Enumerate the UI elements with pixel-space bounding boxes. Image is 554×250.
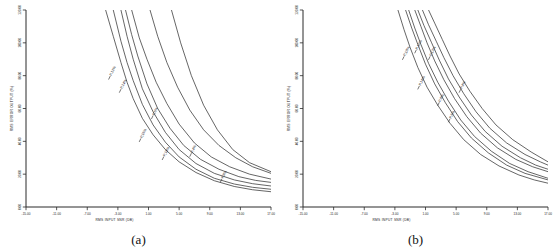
x-tick-label: -11.00 [329, 212, 338, 216]
series-curve [429, 10, 548, 162]
y-tick-label: 40.00 [18, 137, 22, 145]
series-curve [398, 10, 548, 183]
series-label-text: P,16% [139, 127, 147, 139]
series-label-leader [119, 89, 121, 93]
panel-b-svg: -15.00-11.00-7.00-3.001.005.009.0013.001… [277, 0, 554, 232]
x-tick-label: -7.00 [361, 212, 368, 216]
x-tick-label: 9.00 [207, 212, 213, 216]
panel-b: -15.00-11.00-7.00-3.001.005.009.0013.001… [277, 0, 554, 250]
series-curve [121, 10, 271, 186]
series-curve [406, 10, 548, 180]
x-tick-label: -3.00 [114, 212, 121, 216]
series-label: P,16% [137, 127, 147, 143]
series-label-text: P,14% [120, 78, 128, 90]
series-label-leader [162, 156, 164, 160]
x-tick-label: -15.00 [299, 212, 308, 216]
series-label: P,12% [107, 65, 117, 81]
series-curve [409, 10, 548, 178]
series-curve [106, 10, 271, 192]
series-label: P,12% [427, 45, 437, 61]
x-tick-label: 17.00 [544, 212, 552, 216]
y-tick-label: 120.00 [295, 5, 299, 15]
series-curve [132, 10, 271, 179]
y-tick-label: 60.00 [295, 104, 299, 112]
series-curve [126, 10, 271, 182]
y-tick-label: 80.00 [18, 72, 22, 80]
series-curve [418, 10, 548, 169]
x-tick-label: -15.00 [22, 212, 31, 216]
series-label-text: P,12% [429, 45, 437, 57]
x-tick-label: 5.00 [453, 212, 459, 216]
y-tick-label: 100.00 [18, 38, 22, 48]
y-tick-label: 0.00 [295, 204, 299, 210]
series-label-text: P,6% [152, 106, 160, 116]
series-curve [422, 10, 548, 165]
x-tick-label: -11.00 [52, 212, 61, 216]
y-tick-label: 100.00 [295, 38, 299, 48]
panel-a: -15.00-11.00-7.00-3.001.005.009.0013.001… [0, 0, 277, 250]
y-tick-label: 120.00 [18, 5, 22, 15]
y-tick-label: 40.00 [295, 137, 299, 145]
series-label-text: P,14% [418, 75, 426, 87]
x-axis-title: RMS INPUT SNR (DB) [372, 218, 410, 222]
x-tick-label: 5.00 [176, 212, 182, 216]
y-axis-title: RMS ERROR OUTPUT (%) [287, 86, 291, 132]
x-axis-title: RMS INPUT SNR (DB) [95, 218, 133, 222]
y-axis-title: RMS ERROR OUTPUT (%) [10, 86, 14, 132]
series-label-leader [109, 76, 111, 80]
series-label-leader [402, 56, 404, 60]
series-label-leader [428, 56, 430, 60]
series-label-text: P,12% [109, 65, 117, 77]
series-label: P,18% [401, 45, 411, 61]
x-tick-label: 1.00 [145, 212, 151, 216]
y-tick-label: 80.00 [295, 72, 299, 80]
figure-two-panel-line-charts: -15.00-11.00-7.00-3.001.005.009.0013.001… [0, 0, 554, 250]
x-tick-label: 17.00 [267, 212, 275, 216]
panel-a-caption: (a) [0, 232, 277, 248]
x-tick-label: -7.00 [84, 212, 91, 216]
series-label-leader [139, 138, 141, 142]
x-tick-label: 1.00 [422, 212, 428, 216]
series-label-leader [151, 115, 153, 119]
series-label-leader [438, 102, 440, 106]
series-curve [415, 10, 548, 172]
y-tick-label: 20.00 [295, 170, 299, 178]
series-label-leader [190, 153, 192, 157]
y-tick-label: 60.00 [18, 104, 22, 112]
panel-a-plot: -15.00-11.00-7.00-3.001.005.009.0013.001… [0, 0, 277, 232]
y-tick-label: 0.00 [18, 204, 22, 210]
series-label-leader [415, 50, 417, 54]
panel-b-caption: (b) [277, 232, 554, 248]
panel-a-svg: -15.00-11.00-7.00-3.001.005.009.0013.001… [0, 0, 277, 232]
panel-b-plot: -15.00-11.00-7.00-3.001.005.009.0013.001… [277, 0, 554, 232]
series-curve [113, 10, 271, 189]
axis-lines [26, 10, 271, 207]
series-label: P,14% [118, 78, 128, 94]
x-tick-label: -3.00 [391, 212, 398, 216]
x-tick-label: 9.00 [484, 212, 490, 216]
y-tick-label: 20.00 [18, 170, 22, 178]
x-tick-label: 13.00 [237, 212, 245, 216]
series-label-text: P,4% [190, 144, 198, 154]
series-label-leader [418, 86, 420, 90]
series-label-leader [459, 89, 461, 93]
x-tick-label: 13.00 [514, 212, 522, 216]
